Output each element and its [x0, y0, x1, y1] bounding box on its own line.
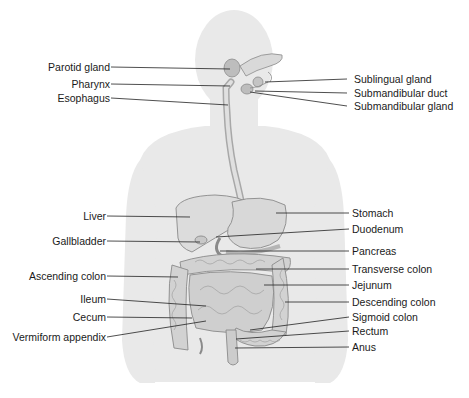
gallbladder-shape — [195, 236, 207, 244]
leader-submandibular-duct — [255, 91, 347, 93]
label-jejunum: Jejunum — [352, 279, 392, 291]
small-intestine-shape — [189, 272, 274, 333]
label-pancreas: Pancreas — [352, 245, 396, 257]
label-pharynx: Pharynx — [71, 78, 110, 90]
label-submandibular-duct: Submandibular duct — [354, 87, 447, 99]
label-sigmoid-colon: Sigmoid colon — [352, 311, 418, 323]
label-parotid-gland: Parotid gland — [48, 61, 110, 73]
label-descending-colon: Descending colon — [352, 296, 435, 308]
label-vermiform-appendix: Vermiform appendix — [13, 331, 106, 343]
label-stomach: Stomach — [352, 207, 393, 219]
label-gallbladder: Gallbladder — [52, 235, 106, 247]
parotid-gland-shape — [224, 59, 240, 77]
label-liver: Liver — [83, 210, 106, 222]
label-duodenum: Duodenum — [352, 223, 403, 235]
label-ileum: Ileum — [80, 293, 106, 305]
label-sublingual-gland: Sublingual gland — [354, 73, 432, 85]
label-submandibular-gland: Submandibular gland — [354, 100, 453, 112]
ascending-colon-shape — [169, 265, 188, 350]
label-esophagus: Esophagus — [57, 92, 110, 104]
leader-submandibular-gland — [250, 92, 347, 106]
abdominal-organs — [169, 195, 291, 365]
label-cecum: Cecum — [73, 311, 106, 323]
label-anus: Anus — [352, 341, 376, 353]
rectum-shape — [226, 330, 238, 365]
leader-sublingual-gland — [265, 79, 347, 82]
label-rectum: Rectum — [352, 325, 388, 337]
label-ascending-colon: Ascending colon — [29, 270, 106, 282]
label-transverse-colon: Transverse colon — [352, 263, 432, 275]
